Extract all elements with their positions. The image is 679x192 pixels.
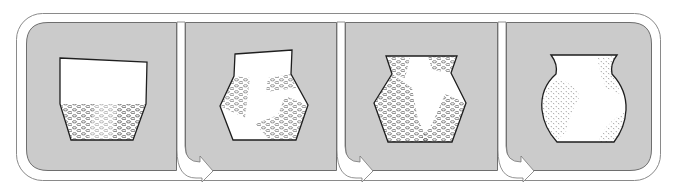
panel-3 [346,23,498,171]
diagram-stage: Sequence of vessel forms [0,0,679,192]
panel-4 [507,23,652,171]
panel-2 [186,23,337,171]
panel-1 [27,23,177,171]
vessel-1-icon [60,58,147,140]
vessel-sequence-diagram [0,0,679,192]
